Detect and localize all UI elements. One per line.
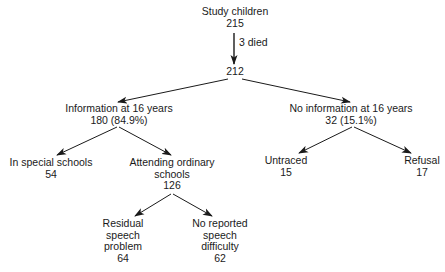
node-label: Untraced	[258, 155, 314, 167]
node-label: Study children	[185, 6, 285, 18]
flowchart-diagram: Study children 215 3 died 212 Informatio…	[0, 0, 445, 272]
node-label-line1: Residual	[96, 218, 150, 230]
node-count: 64	[96, 253, 150, 265]
node-label: Refusal	[398, 155, 445, 167]
node-residual-speech: Residual speech problem 64	[96, 218, 150, 264]
node-label-line3: difficulty	[186, 241, 254, 253]
node-label-line3: problem	[96, 241, 150, 253]
node-study-children: Study children 215	[185, 6, 285, 29]
node-information: Information at 16 years 180 (84.9%)	[58, 103, 180, 126]
node-no-information: No information at 16 years 32 (15.1%)	[282, 103, 420, 126]
node-ordinary-schools: Attending ordinary schools 126	[120, 157, 224, 192]
node-count: 17	[398, 167, 445, 179]
node-count: 54	[3, 169, 99, 181]
node-label-line1: Attending ordinary	[120, 157, 224, 169]
node-count: 215	[185, 18, 285, 30]
node-label: No information at 16 years	[282, 103, 420, 115]
edge-survivors-to-info	[118, 79, 228, 102]
node-count: 212	[210, 66, 260, 78]
node-count: 180 (84.9%)	[58, 115, 180, 127]
node-label-line1: No reported	[186, 218, 254, 230]
edge-ordinary-to-no-difficulty	[173, 194, 212, 216]
edge-no-info-to-untraced	[299, 127, 352, 153]
node-special-schools: In special schools 54	[3, 157, 99, 180]
edge-info-to-ordinary	[119, 127, 171, 155]
node-label: Information at 16 years	[58, 103, 180, 115]
edge-no-info-to-refusal	[354, 127, 411, 153]
node-count: 15	[258, 167, 314, 179]
node-refusal: Refusal 17	[398, 155, 445, 178]
node-count: 126	[120, 180, 224, 192]
edge-info-to-special	[57, 127, 117, 155]
edge-label-died: 3 died	[239, 37, 268, 48]
node-count: 32 (15.1%)	[282, 115, 420, 127]
node-label: In special schools	[3, 157, 99, 169]
node-count: 62	[186, 253, 254, 265]
edge-survivors-to-no-info	[242, 79, 350, 102]
node-untraced: Untraced 15	[258, 155, 314, 178]
node-no-speech-difficulty: No reported speech difficulty 62	[186, 218, 254, 264]
edge-ordinary-to-residual	[135, 194, 171, 216]
node-survivors: 212	[210, 66, 260, 78]
